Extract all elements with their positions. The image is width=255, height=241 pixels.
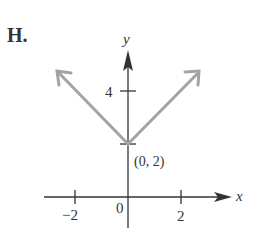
- graph: y x 4 −2 0 2 (0, 2): [0, 0, 255, 241]
- tick-label-0: 0: [116, 200, 124, 216]
- tick-label-neg2: −2: [62, 207, 78, 223]
- x-axis-label: x: [235, 188, 243, 204]
- tick-label-4: 4: [105, 84, 113, 100]
- tick-label-2: 2: [177, 208, 185, 224]
- y-axis-label: y: [121, 31, 130, 47]
- vertex-label: (0, 2): [134, 154, 165, 170]
- x-axis: [44, 190, 232, 204]
